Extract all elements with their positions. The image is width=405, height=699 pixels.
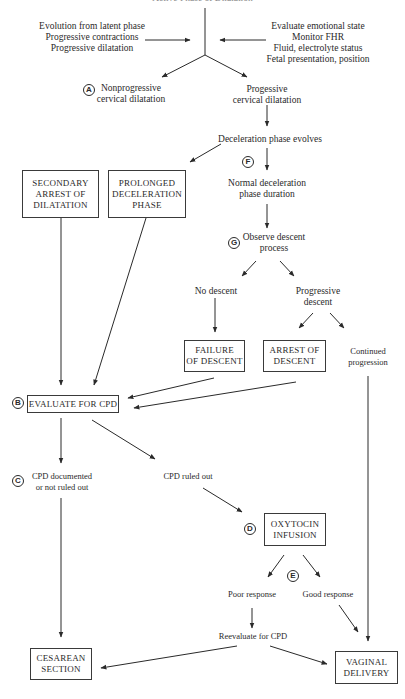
box-secondary-arrest: SECONDARY ARREST OF DILATATION (22, 170, 99, 218)
input-emotional-state: Evaluate emotional state (266, 21, 369, 32)
node-normal-decel: Normal deceleration phase duration (228, 178, 306, 200)
box-prolonged-decel: PROLONGED DECELERATION PHASE (108, 170, 186, 218)
box-oxytocin: OXYTOCIN INFUSION (264, 513, 326, 546)
node-continued: Continued progression (348, 346, 388, 368)
diagram-title: Active Phase of Dilatation (152, 0, 253, 3)
marker-e-icon: E (287, 570, 299, 582)
flowchart-canvas: Active Phase of Dilatation Evolution fro… (0, 0, 405, 699)
input-progressive-contractions: Progressive contractions (39, 32, 145, 43)
node-progressive: Progessive cervical dilatation (233, 84, 301, 106)
marker-f-icon: F (242, 156, 254, 168)
node-observe-descent: Observe descent process (243, 232, 306, 254)
marker-d-icon: D (244, 523, 256, 535)
box-vaginal: VAGINAL DELIVERY (335, 651, 398, 684)
marker-b-icon: B (12, 397, 24, 409)
node-no-descent: No descent (195, 286, 237, 297)
right-inputs: Evaluate emotional state Monitor FHR Flu… (266, 21, 369, 65)
marker-c-icon: C (12, 475, 24, 487)
node-reevaluate: Reevaluate for CPD (219, 631, 287, 642)
input-fluid-electrolyte: Fluid, electrolyte status (266, 43, 369, 54)
input-latent-phase: Evolution from latent phase (39, 21, 145, 32)
input-fetal-presentation: Fetal presentation, position (266, 54, 369, 65)
node-cpd-ruled-out: CPD ruled out (163, 471, 212, 482)
node-progressive-descent: Progressive descent (296, 286, 340, 308)
node-cpd-documented: CPD documented or not ruled out (32, 471, 92, 493)
node-good-response: Good response (303, 589, 354, 600)
left-inputs: Evolution from latent phase Progressive … (39, 21, 145, 54)
node-decel-evolves: Deceleration phase evolves (218, 134, 322, 145)
box-evaluate-cpd: EVALUATE FOR CPD (27, 395, 119, 413)
marker-g-icon: G (228, 237, 240, 249)
node-nonprogressive: Nonprogressive cervical dilatation (97, 83, 165, 105)
marker-a-icon: A (83, 84, 95, 96)
input-monitor-fhr: Monitor FHR (266, 32, 369, 43)
input-progressive-dilatation: Progressive dilatation (39, 43, 145, 54)
box-arrest-descent: ARREST OF DESCENT (263, 340, 326, 372)
node-poor-response: Poor response (228, 589, 276, 600)
box-failure-descent: FAILURE OF DESCENT (184, 340, 245, 372)
box-cesarean: CESAREAN SECTION (30, 648, 92, 680)
